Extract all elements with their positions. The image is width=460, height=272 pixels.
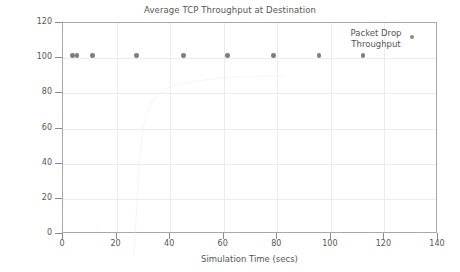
x-tick-label: 20 [96,239,136,248]
data-point [90,53,95,58]
gridline-horizontal [63,58,436,59]
legend-label-line1: Packet Drop [320,28,432,39]
y-tick-mark [55,57,62,58]
data-point [361,53,366,58]
gridline-vertical [170,23,171,232]
x-tick-label: 60 [203,239,243,248]
y-tick-label: 20 [18,193,52,202]
data-point [271,53,276,58]
x-tick-label: 120 [363,239,403,248]
gridline-horizontal [63,93,436,94]
y-tick-mark [55,198,62,199]
y-tick-mark [55,233,62,234]
chart-title: Average TCP Throughput at Destination [0,5,460,15]
y-tick-label: 40 [18,158,52,167]
gridline-horizontal [63,199,436,200]
data-point [181,53,186,58]
x-tick-label: 140 [417,239,457,248]
data-point [70,53,75,58]
x-tick-label: 80 [256,239,296,248]
y-tick-label: 80 [18,87,52,96]
data-point [225,53,230,58]
y-tick-label: 120 [18,17,52,26]
x-tick-label: 0 [42,239,82,248]
x-axis-title: Simulation Time (secs) [62,254,437,264]
y-tick-mark [55,128,62,129]
x-tick-label: 100 [310,239,350,248]
gridline-vertical [384,23,385,232]
y-tick-mark [55,163,62,164]
legend-marker-icon [410,35,414,39]
y-tick-label: 60 [18,123,52,132]
gridline-vertical [117,23,118,232]
y-tick-mark [55,22,62,23]
x-tick-label: 40 [149,239,189,248]
gridline-vertical [331,23,332,232]
legend-label-line2: Throughput [320,39,432,50]
plot-area [62,22,437,233]
data-point [75,53,80,58]
y-tick-label: 100 [18,52,52,61]
y-tick-mark [55,92,62,93]
data-point [317,53,322,58]
gridline-horizontal [63,129,436,130]
y-tick-label: 0 [18,228,52,237]
ghost-curve-artifact [125,45,460,256]
chart-container: Average TCP Throughput at Destination 02… [0,0,460,272]
gridline-horizontal [63,164,436,165]
data-point [134,53,139,58]
legend: Packet Drop Throughput [320,28,432,50]
gridline-vertical [277,23,278,232]
